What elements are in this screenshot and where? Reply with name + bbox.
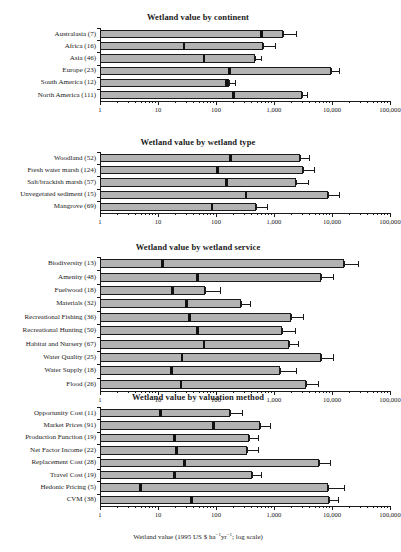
error-bar-cap (303, 314, 304, 320)
y-axis-tick (97, 189, 100, 190)
median-marker (139, 484, 142, 491)
error-bar-cap (300, 155, 301, 161)
median-marker (171, 287, 174, 295)
error-bar-cap (230, 410, 231, 416)
x-axis-minor-tick (291, 101, 292, 103)
x-axis-minor-tick (384, 213, 385, 215)
error-bar-cap (307, 92, 308, 98)
x-axis-major-tick (158, 101, 159, 105)
error-bar (321, 358, 334, 359)
error-bar-cap (270, 423, 271, 429)
x-axis-tick-label: 1 (98, 106, 101, 113)
x-axis-minor-tick (315, 506, 316, 508)
bar (100, 313, 291, 322)
x-axis-minor-tick (367, 213, 368, 215)
category-label: Replacement Cost (28) (0, 459, 96, 466)
bar (100, 496, 329, 505)
category-label: Recreational Fishing (36) (0, 314, 96, 321)
y-axis-tick (97, 351, 100, 352)
error-bar-cap (255, 56, 256, 62)
category-label: Production Function (19) (0, 434, 96, 441)
median-marker (181, 354, 184, 362)
error-bar-cap (358, 261, 359, 267)
error-bar-cap (250, 301, 251, 307)
x-axis-tick-label: 100 (211, 106, 221, 113)
y-axis-tick (97, 297, 100, 298)
x-axis-minor-tick (135, 101, 136, 103)
x-axis-minor-tick (373, 101, 374, 103)
x-axis-minor-tick (319, 213, 320, 215)
error-bar (328, 488, 345, 489)
y-axis-tick (97, 270, 100, 271)
x-axis-minor-tick (387, 213, 388, 215)
bar (100, 409, 230, 418)
category-label: Market Prices (91) (0, 422, 96, 429)
bar (100, 191, 328, 199)
x-axis-minor-tick (141, 101, 142, 103)
bar (100, 259, 344, 268)
x-axis-minor-tick (210, 101, 211, 103)
panel-title: Wetland value by wetland type (0, 137, 396, 147)
y-axis-tick (97, 164, 100, 165)
bar (100, 203, 256, 211)
x-axis-minor-tick (199, 506, 200, 508)
bar (100, 30, 283, 38)
error-bar (344, 264, 359, 265)
x-axis-minor-tick (207, 213, 208, 215)
median-marker (211, 203, 214, 210)
error-bar-cap (303, 167, 304, 173)
x-axis-minor-tick (381, 506, 382, 508)
median-marker (196, 327, 199, 335)
x-axis-tick-label: 1,000 (267, 106, 282, 113)
category-label: Fuelwood (18) (0, 287, 96, 294)
error-bar-cap (247, 447, 248, 453)
x-axis-minor-tick (145, 213, 146, 215)
x-axis-minor-tick (193, 506, 194, 508)
category-label: Amenity (48) (0, 274, 96, 281)
x-axis-minor-tick (291, 213, 292, 215)
x-axis-minor-tick (155, 213, 156, 215)
error-bar-cap (249, 435, 250, 441)
x-axis-minor-tick (360, 101, 361, 103)
x-axis-minor-tick (377, 506, 378, 508)
x-axis-minor-tick (326, 213, 327, 215)
x-axis-major-tick (100, 213, 101, 217)
error-bar-cap (242, 410, 243, 416)
bar (100, 483, 328, 492)
category-label: Woodland (52) (0, 155, 96, 162)
error-bar-cap (258, 435, 259, 441)
error-bar-cap (302, 92, 303, 98)
x-axis-minor-tick (257, 506, 258, 508)
error-bar (321, 277, 334, 278)
x-axis-minor-tick (233, 101, 234, 103)
x-axis-minor-tick (233, 213, 234, 215)
x-axis-minor-tick (377, 101, 378, 103)
x-axis-tick-label: 100 (211, 511, 221, 518)
x-axis-minor-tick (323, 213, 324, 215)
y-axis-tick (97, 457, 100, 458)
x-axis-minor-tick (244, 213, 245, 215)
x-axis-minor-tick (381, 213, 382, 215)
category-label: Travel Cost (19) (0, 472, 96, 479)
error-bar-cap (328, 192, 329, 198)
x-axis-minor-tick (175, 506, 176, 508)
x-axis-major-tick (390, 213, 391, 217)
bar (100, 286, 205, 295)
x-axis-minor-tick (155, 506, 156, 508)
category-label: Flood (26) (0, 381, 96, 388)
error-bar-cap (261, 472, 262, 478)
median-marker (225, 179, 228, 186)
x-axis-major-tick (216, 506, 217, 510)
median-marker (188, 313, 191, 321)
x-axis-tick-label: 1 (98, 511, 101, 518)
x-axis-major-tick (158, 506, 159, 510)
median-marker (183, 43, 186, 50)
bar (100, 42, 263, 50)
x-axis-major-tick (216, 213, 217, 217)
x-axis-line (100, 101, 390, 102)
median-marker (159, 410, 162, 417)
bar (100, 326, 282, 335)
x-axis-minor-tick (193, 213, 194, 215)
error-bar-cap (275, 43, 276, 49)
x-axis-major-tick (100, 101, 101, 105)
